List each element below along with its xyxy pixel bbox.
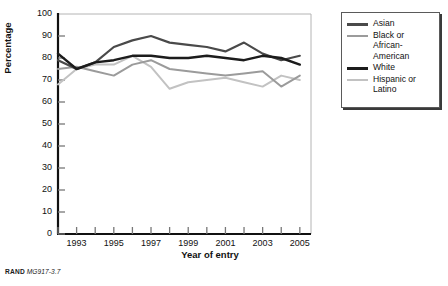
- y-tick-label: 20: [22, 184, 52, 194]
- y-tick-label: 30: [22, 162, 52, 172]
- y-tick-label: 90: [22, 30, 52, 40]
- legend-label: Asian: [373, 18, 395, 29]
- x-tick-label: 1997: [131, 238, 171, 248]
- legend-swatch-icon: [347, 79, 368, 82]
- y-tick-label: 70: [22, 74, 52, 84]
- y-tick-label: 100: [22, 8, 52, 18]
- legend-item: White: [347, 62, 435, 73]
- legend-swatch-icon: [347, 67, 368, 70]
- legend-label: Black or African- American: [373, 30, 409, 62]
- series-layer: [58, 36, 300, 89]
- y-tick-label: 0: [22, 228, 52, 238]
- x-tick-label: 1993: [57, 238, 97, 248]
- footer-code: MG917-3.7: [27, 268, 61, 275]
- x-tick-label: 1999: [168, 238, 208, 248]
- figure-source-note: RAND MG917-3.7: [5, 268, 61, 275]
- legend-swatch-icon: [347, 35, 368, 38]
- legend-swatch-icon: [347, 23, 368, 26]
- chart-legend: AsianBlack or African- AmericanWhiteHisp…: [341, 12, 440, 108]
- legend-label: White: [373, 62, 395, 73]
- legend-item: Hispanic or Latino: [347, 74, 435, 95]
- series-line-white: [58, 54, 300, 69]
- y-tick-label: 60: [22, 96, 52, 106]
- axis-layer: [57, 13, 311, 234]
- footer-brand: RAND: [5, 268, 25, 275]
- y-tick-label: 40: [22, 140, 52, 150]
- x-tick-label: 1995: [94, 238, 134, 248]
- x-tick-label: 2005: [280, 238, 320, 248]
- y-tick-label: 50: [22, 118, 52, 128]
- x-tick-label: 2003: [243, 238, 283, 248]
- legend-item: Black or African- American: [347, 30, 435, 62]
- chart-figure: Percentage 0102030405060708090100 199319…: [0, 0, 448, 286]
- y-tick-label: 10: [22, 206, 52, 216]
- legend-label: Hispanic or Latino: [373, 74, 416, 95]
- x-axis-title: Year of entry: [120, 249, 300, 260]
- x-tick-label: 2001: [205, 238, 245, 248]
- legend-item: Asian: [347, 18, 435, 29]
- y-tick-label: 80: [22, 52, 52, 62]
